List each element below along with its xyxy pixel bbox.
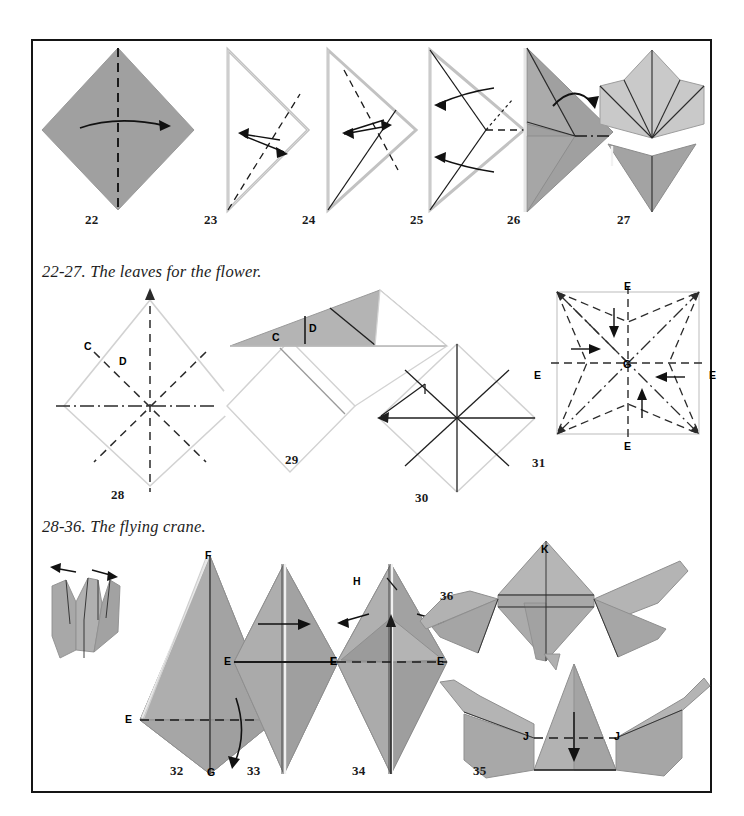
step-number-34: 34	[352, 763, 366, 779]
label-31-e-right: E	[709, 369, 716, 381]
step-number-27: 27	[617, 212, 631, 228]
step-number-29: 29	[285, 452, 299, 468]
step-number-35: 35	[473, 763, 487, 779]
label-31-e-left: E	[534, 369, 541, 381]
figure-step-24	[320, 48, 420, 214]
label-34-h: H	[353, 575, 361, 587]
figure-step-35	[428, 652, 716, 784]
label-35-j-right: J	[614, 730, 620, 742]
label-31-g: G	[623, 358, 631, 370]
figure-step-32-inset	[46, 558, 126, 668]
step-number-22: 22	[85, 212, 99, 228]
figure-step-23	[224, 48, 310, 214]
figure-step-27	[594, 46, 712, 216]
step-number-23: 23	[204, 212, 218, 228]
figure-step-22	[38, 44, 198, 214]
figure-step-36	[418, 533, 708, 663]
step-number-32: 32	[170, 763, 184, 779]
caption-leaves: 22-27. The leaves for the flower.	[42, 262, 262, 282]
step-number-31: 31	[532, 455, 546, 471]
label-32-g: G	[207, 766, 215, 778]
label-36-k: K	[541, 543, 549, 555]
origami-instruction-plate: 22 23 24	[0, 0, 744, 816]
label-29-d: D	[309, 322, 317, 334]
label-35-j-left: J	[523, 730, 529, 742]
step-number-33: 33	[247, 763, 261, 779]
step-number-30: 30	[415, 490, 429, 506]
label-31-e-top: E	[624, 280, 631, 292]
label-29-c: C	[272, 331, 280, 343]
caption-crane: 28-36. The flying crane.	[42, 517, 206, 537]
step-number-36: 36	[440, 588, 454, 604]
label-28-d: D	[119, 355, 127, 367]
label-31-e-bottom: E	[624, 440, 631, 452]
label-28-c: C	[84, 340, 92, 352]
step-number-26: 26	[507, 212, 521, 228]
step-number-25: 25	[410, 212, 424, 228]
step-number-24: 24	[302, 212, 316, 228]
figure-step-28	[50, 286, 250, 496]
figure-step-33	[228, 558, 348, 780]
figure-step-30	[367, 332, 547, 502]
label-32-e-left: E	[125, 713, 132, 725]
label-34-e-left: E	[330, 655, 337, 667]
label-33-e-left: E	[224, 655, 231, 667]
label-32-f: F	[205, 549, 211, 561]
step-number-28: 28	[111, 487, 125, 503]
